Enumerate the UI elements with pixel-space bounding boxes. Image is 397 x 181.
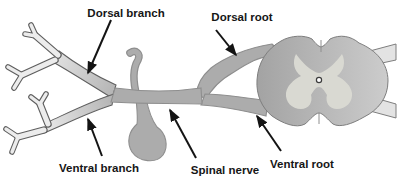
dorsal-root-arrow [216, 30, 236, 55]
diagram-container: Dorsal branch Dorsal root Ventral branch… [0, 0, 397, 181]
ventral-branch-prongs [6, 94, 46, 152]
dorsal-branch-arrow [88, 20, 111, 73]
sympathetic-ganglion [129, 98, 166, 161]
ventral-branch-arrow [88, 119, 102, 156]
spinal-nerve-trunk [111, 88, 202, 104]
label-ventral-root: Ventral root [270, 158, 334, 170]
spinal-nerve-arrow [170, 110, 196, 158]
ventral-branch [44, 94, 114, 133]
label-spinal-nerve: Spinal nerve [191, 164, 259, 176]
spinal-nerve-diagram: Dorsal branch Dorsal root Ventral branch… [0, 0, 397, 181]
label-dorsal-branch: Dorsal branch [87, 7, 164, 19]
ventral-root-arrow [257, 116, 281, 151]
label-ventral-branch: Ventral branch [59, 162, 139, 174]
label-dorsal-root: Dorsal root [211, 11, 273, 23]
central-canal [316, 77, 321, 82]
ventral-root [201, 94, 268, 116]
dorsal-branch [53, 51, 116, 98]
